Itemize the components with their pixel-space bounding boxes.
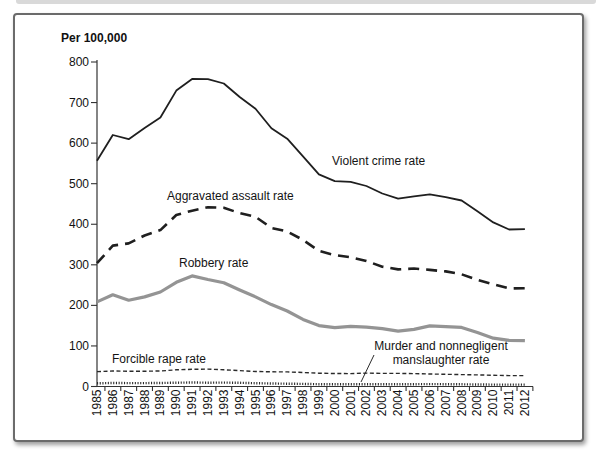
x-axis-tick-label: 2007 — [439, 389, 452, 429]
page-top-edge-strip — [16, 0, 596, 4]
x-axis-tick-label: 1996 — [265, 389, 278, 429]
axis-tick-labels: 8007006005004003002001000198519861987198… — [15, 15, 582, 440]
y-axis-tick-label: 800 — [45, 55, 89, 69]
y-axis-tick-label: 300 — [45, 258, 89, 272]
x-axis-tick-label: 2006 — [423, 389, 436, 429]
crime-rate-chart-figure: Per 100,000 Violent crime rate Aggravate… — [13, 13, 584, 442]
x-axis-tick-label: 1989 — [154, 389, 167, 429]
y-axis-tick-label: 100 — [45, 339, 89, 353]
y-axis-tick-label: 600 — [45, 136, 89, 150]
x-axis-tick-label: 2009 — [471, 389, 484, 429]
x-axis-tick-label: 2005 — [408, 389, 421, 429]
x-axis-tick-label: 1999 — [312, 389, 325, 429]
x-axis-tick-label: 2004 — [392, 389, 405, 429]
y-axis-tick-label: 400 — [45, 217, 89, 231]
x-axis-tick-label: 2011 — [503, 389, 516, 429]
x-axis-tick-label: 2003 — [376, 389, 389, 429]
x-axis-tick-label: 2002 — [360, 389, 373, 429]
x-axis-tick-label: 2008 — [455, 389, 468, 429]
x-axis-tick-label: 1987 — [122, 389, 135, 429]
y-axis-tick-label: 500 — [45, 177, 89, 191]
y-axis-tick-label: 200 — [45, 298, 89, 312]
x-axis-tick-label: 1986 — [106, 389, 119, 429]
x-axis-tick-label: 1988 — [138, 389, 151, 429]
x-axis-tick-label: 1998 — [297, 389, 310, 429]
y-axis-tick-label: 0 — [45, 380, 89, 394]
x-axis-tick-label: 2000 — [328, 389, 341, 429]
x-axis-tick-label: 1994 — [233, 389, 246, 429]
x-axis-tick-label: 1985 — [91, 389, 104, 429]
y-axis-tick-label: 700 — [45, 96, 89, 110]
x-axis-tick-label: 1990 — [170, 389, 183, 429]
x-axis-tick-label: 2012 — [518, 389, 531, 429]
x-axis-tick-label: 1991 — [186, 389, 199, 429]
x-axis-tick-label: 1997 — [281, 389, 294, 429]
x-axis-tick-label: 1993 — [217, 389, 230, 429]
x-axis-tick-label: 1995 — [249, 389, 262, 429]
x-axis-tick-label: 2010 — [487, 389, 500, 429]
x-axis-tick-label: 2001 — [344, 389, 357, 429]
x-axis-tick-label: 1992 — [201, 389, 214, 429]
